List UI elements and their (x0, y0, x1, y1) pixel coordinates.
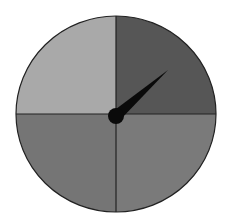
section-top-left (16, 16, 116, 114)
pointer-hub (108, 108, 124, 124)
section-bottom-left (16, 114, 116, 212)
section-bottom-right (116, 114, 216, 212)
spinner (0, 0, 239, 221)
